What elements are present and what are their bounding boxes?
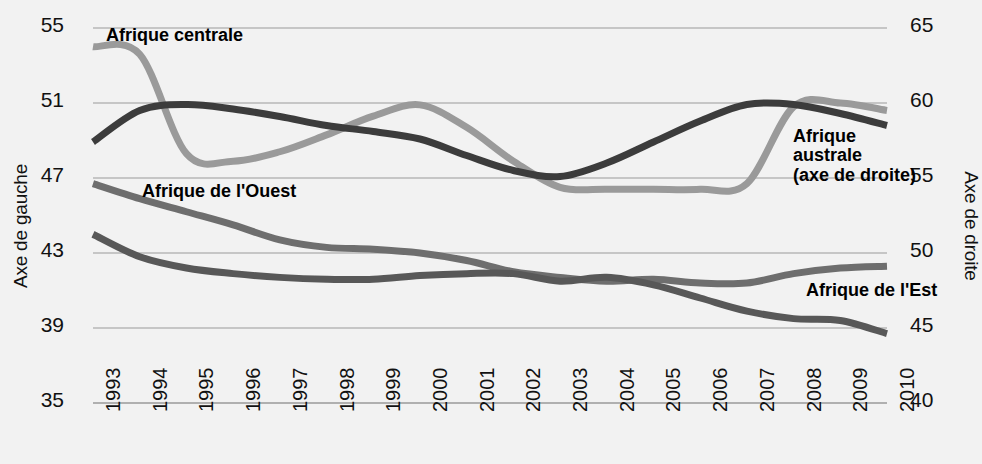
x-tick-1997: 1997 bbox=[289, 368, 312, 413]
right-tick-55: 55 bbox=[910, 163, 954, 187]
series-label-afrique-australe-line2: australe bbox=[793, 146, 916, 165]
series-label-afrique-australe: Afrique australe (axe de droite) bbox=[793, 127, 916, 185]
x-tick-2005: 2005 bbox=[662, 368, 685, 413]
right-tick-45: 45 bbox=[910, 313, 954, 337]
left-tick-39: 39 bbox=[20, 313, 64, 337]
x-tick-2008: 2008 bbox=[803, 368, 826, 413]
x-tick-2002: 2002 bbox=[522, 368, 545, 413]
series-label-afrique-ouest: Afrique de l'Ouest bbox=[142, 182, 296, 201]
x-tick-2001: 2001 bbox=[476, 368, 499, 413]
series-label-afrique-centrale: Afrique centrale bbox=[106, 26, 243, 45]
x-tick-1995: 1995 bbox=[195, 368, 218, 413]
x-tick-1994: 1994 bbox=[149, 368, 172, 413]
x-tick-2009: 2009 bbox=[849, 368, 872, 413]
x-tick-2000: 2000 bbox=[429, 368, 452, 413]
left-tick-35: 35 bbox=[20, 388, 64, 412]
series-line-afrique-centrale bbox=[93, 44, 887, 191]
x-tick-2004: 2004 bbox=[616, 368, 639, 413]
x-tick-1998: 1998 bbox=[336, 368, 359, 413]
left-tick-43: 43 bbox=[20, 238, 64, 262]
series-label-afrique-est: Afrique de l'Est bbox=[806, 281, 937, 300]
x-tick-2003: 2003 bbox=[569, 368, 592, 413]
x-tick-2010: 2010 bbox=[896, 368, 919, 413]
x-tick-1996: 1996 bbox=[242, 368, 265, 413]
right-tick-65: 65 bbox=[910, 13, 954, 37]
left-tick-55: 55 bbox=[20, 13, 64, 37]
x-tick-1993: 1993 bbox=[102, 368, 125, 413]
x-tick-2006: 2006 bbox=[709, 368, 732, 413]
left-tick-47: 47 bbox=[20, 163, 64, 187]
x-tick-1999: 1999 bbox=[382, 368, 405, 413]
right-tick-50: 50 bbox=[910, 238, 954, 262]
left-tick-51: 51 bbox=[20, 88, 64, 112]
right-tick-60: 60 bbox=[910, 88, 954, 112]
x-tick-2007: 2007 bbox=[756, 368, 779, 413]
series-label-afrique-australe-line1: Afrique bbox=[793, 127, 916, 146]
series-line-afrique-de-l-est bbox=[93, 234, 887, 333]
series-label-afrique-australe-line3: (axe de droite) bbox=[793, 166, 916, 185]
right-axis-title: Axe de droite bbox=[960, 151, 982, 301]
